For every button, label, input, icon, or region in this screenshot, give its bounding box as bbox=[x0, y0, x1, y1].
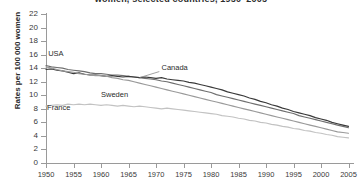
chart-root: women, selected countries, 1950–2005 Rat… bbox=[0, 0, 362, 185]
series-label-france: France bbox=[47, 103, 70, 112]
series-label-usa: USA bbox=[48, 49, 63, 58]
series-label-sweden: Sweden bbox=[101, 90, 128, 99]
series-label-canada: Canada bbox=[162, 63, 188, 72]
series-annotations: USACanadaSwedenFrance bbox=[0, 0, 362, 185]
